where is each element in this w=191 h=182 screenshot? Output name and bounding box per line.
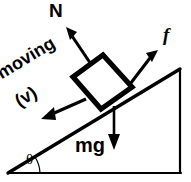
incline-angle-arc bbox=[35, 157, 40, 173]
velocity-vector bbox=[41, 99, 86, 120]
free-body-diagram: N f moving (v) mg θ bbox=[0, 0, 191, 182]
normal-force-arrowhead bbox=[66, 27, 77, 40]
incline-angle-label: θ bbox=[26, 152, 33, 167]
weight-arrowhead bbox=[108, 134, 120, 150]
velocity-arrowhead bbox=[41, 107, 56, 120]
weight-label: mg bbox=[75, 135, 105, 155]
friction-force-label: f bbox=[163, 25, 169, 44]
velocity-shaft bbox=[52, 99, 86, 114]
normal-force-label: N bbox=[49, 1, 63, 20]
